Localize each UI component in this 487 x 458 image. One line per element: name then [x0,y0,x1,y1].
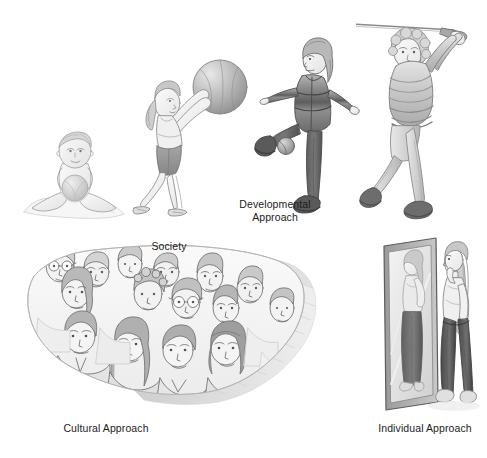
label-developmental-approach: Developmental Approach [233,198,317,223]
figure-approaches-to-behavior: Developmental Approach Society Cultural … [0,0,487,458]
illustration-woman-facing-full-length-mirror [374,234,486,420]
label-developmental-line2: Approach [233,211,317,224]
illustration-us-map-with-crowd-of-faces [18,232,338,412]
illustration-adult-golf-swing [356,8,487,223]
label-individual-approach: Individual Approach [367,422,483,435]
label-developmental-line1: Developmental [233,198,317,211]
label-cultural-approach: Cultural Approach [48,422,164,435]
label-society: Society [134,240,204,253]
illustration-infant-sitting-with-ball [18,128,130,220]
illustration-adolescent-kicking-ball [252,32,370,222]
illustration-child-holding-beach-ball [124,56,254,220]
